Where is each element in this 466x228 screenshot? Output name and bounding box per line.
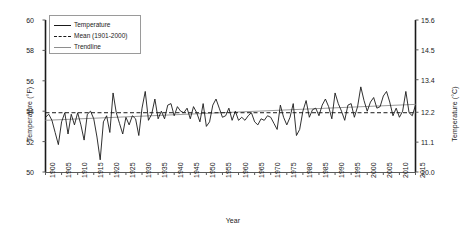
x-tick-label: 1995 bbox=[354, 162, 361, 178]
x-tick-label: 2005 bbox=[386, 162, 393, 178]
y-axis-title-left: Temperature (°F) bbox=[26, 87, 33, 142]
temperature-line-chart: 505254565860 10.011.112.213.414.515.6 19… bbox=[0, 0, 466, 228]
x-tick-label: 1915 bbox=[97, 162, 104, 178]
x-tick-label: 1975 bbox=[290, 162, 297, 178]
legend-label-temperature: Temperature bbox=[74, 20, 111, 29]
x-tick-label: 1945 bbox=[193, 162, 200, 178]
legend-swatch-temperature-icon bbox=[54, 21, 71, 29]
legend-item-temperature: Temperature bbox=[54, 19, 136, 30]
x-tick-label: 1900 bbox=[49, 162, 56, 178]
x-tick-label: 1970 bbox=[274, 162, 281, 178]
x-tick-label: 1990 bbox=[338, 162, 345, 178]
x-tick-label: 1905 bbox=[65, 162, 72, 178]
x-tick-label: 1910 bbox=[81, 162, 88, 178]
legend-swatch-mean-icon bbox=[54, 32, 71, 40]
y-axis-title-right: Temperature (°C) bbox=[451, 86, 458, 141]
x-tick-label: 1950 bbox=[209, 162, 216, 178]
x-tick-label: 2000 bbox=[370, 162, 377, 178]
legend-swatch-trendline-icon bbox=[54, 43, 71, 51]
x-tick-label: 2010 bbox=[402, 162, 409, 178]
x-tick-label: 1935 bbox=[161, 162, 168, 178]
chart-legend: Temperature Mean (1901-2000) Trendline bbox=[49, 15, 141, 54]
x-tick-label: 1985 bbox=[322, 162, 329, 178]
x-tick-label: 1960 bbox=[242, 162, 249, 178]
x-tick-label: 1940 bbox=[177, 162, 184, 178]
x-tick-label: 1930 bbox=[145, 162, 152, 178]
x-tick-label: 2015 bbox=[419, 162, 426, 178]
x-tick-label: 1925 bbox=[129, 162, 136, 178]
legend-label-trendline: Trendline bbox=[74, 42, 101, 51]
x-tick-label: 1955 bbox=[225, 162, 232, 178]
legend-label-mean: Mean (1901-2000) bbox=[74, 31, 127, 40]
x-axis-title: Year bbox=[0, 217, 466, 224]
x-tick-label: 1965 bbox=[258, 162, 265, 178]
legend-item-trendline: Trendline bbox=[54, 41, 136, 52]
x-tick-label: 1980 bbox=[306, 162, 313, 178]
x-tick-label: 1920 bbox=[113, 162, 120, 178]
legend-item-mean: Mean (1901-2000) bbox=[54, 30, 136, 41]
